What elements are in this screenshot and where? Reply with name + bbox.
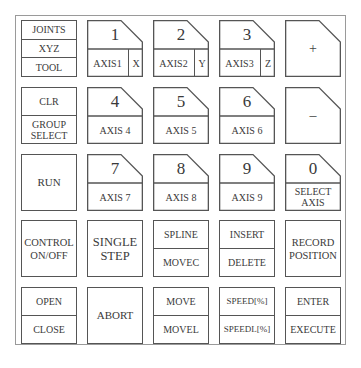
movec-label: MOVEC (154, 248, 208, 276)
run-key[interactable]: RUN (21, 154, 77, 211)
speed-label: SPEED[%] (220, 288, 274, 315)
key-4-axis4[interactable]: 4 AXIS 4 (87, 87, 143, 144)
minus-icon: – (285, 87, 341, 144)
close-label: CLOSE (22, 315, 76, 343)
coord-label: Y (194, 49, 209, 77)
enter-label: ENTER (286, 288, 340, 315)
on-off-label: ON/OFF (30, 249, 67, 262)
axis-label-row: AXIS3 Z (219, 49, 275, 77)
axis-label: AXIS 4 (87, 116, 143, 144)
plus-icon: + (285, 20, 341, 77)
mode-key-joints-xyz-tool[interactable]: JOINTS XYZ TOOL (21, 20, 77, 77)
single-label: SINGLE (93, 235, 137, 249)
control-label: CONTROL (24, 236, 74, 249)
step-label: STEP (100, 249, 129, 263)
group-select-label: GROUP SELECT (22, 115, 76, 143)
digit-label: 9 (219, 154, 275, 183)
axis-label: AXIS 7 (87, 183, 143, 211)
position-label: POSITION (289, 249, 337, 262)
key-1-axis1-x[interactable]: 1 AXIS1 X (87, 20, 143, 77)
key-0-select-axis[interactable]: 0 SELECT AXIS (285, 154, 341, 211)
record-position-key[interactable]: RECORD POSITION (285, 220, 341, 277)
axis-label: AXIS 8 (153, 183, 209, 211)
move-label: MOVE (154, 288, 208, 315)
coord-label: Z (260, 49, 275, 77)
axis-label: AXIS2 (153, 58, 194, 69)
open-close-key[interactable]: OPEN CLOSE (21, 287, 77, 344)
enter-execute-key[interactable]: ENTER EXECUTE (285, 287, 341, 344)
single-step-key[interactable]: SINGLE STEP (87, 220, 143, 277)
key-9-axis9[interactable]: 9 AXIS 9 (219, 154, 275, 211)
digit-label: 3 (219, 20, 275, 49)
mode-joints-label: JOINTS (22, 21, 76, 39)
spline-movec-key[interactable]: SPLINE MOVEC (153, 220, 209, 277)
key-3-axis3-z[interactable]: 3 AXIS3 Z (219, 20, 275, 77)
axis-label-row: AXIS2 Y (153, 49, 209, 77)
mode-tool-label: TOOL (22, 57, 76, 76)
delete-label: DELETE (220, 248, 274, 276)
execute-label: EXECUTE (286, 315, 340, 343)
axis-label: AXIS3 (219, 58, 260, 69)
abort-key[interactable]: ABORT (87, 287, 143, 344)
key-8-axis8[interactable]: 8 AXIS 8 (153, 154, 209, 211)
record-label: RECORD (292, 236, 335, 249)
key-2-axis2-y[interactable]: 2 AXIS2 Y (153, 20, 209, 77)
minus-key[interactable]: – (285, 87, 341, 144)
coord-label: X (128, 49, 143, 77)
digit-label: 2 (153, 20, 209, 49)
speedl-label: SPEEDL[%] (220, 315, 274, 343)
digit-label: 7 (87, 154, 143, 183)
select-label: SELECT (31, 130, 68, 141)
key-6-axis6[interactable]: 6 AXIS 6 (219, 87, 275, 144)
open-label: OPEN (22, 288, 76, 315)
digit-label: 4 (87, 87, 143, 116)
insert-delete-key[interactable]: INSERT DELETE (219, 220, 275, 277)
axis-label: AXIS 9 (219, 183, 275, 211)
axis-label: AXIS1 (87, 58, 128, 69)
select-label: SELECT (295, 186, 332, 197)
axis-label-row: AXIS1 X (87, 49, 143, 77)
axis-label: AXIS 6 (219, 116, 275, 144)
mode-xyz-label: XYZ (22, 39, 76, 58)
key-5-axis5[interactable]: 5 AXIS 5 (153, 87, 209, 144)
digit-label: 6 (219, 87, 275, 116)
plus-key[interactable]: + (285, 20, 341, 77)
speed-speedl-key[interactable]: SPEED[%] SPEEDL[%] (219, 287, 275, 344)
key-7-axis7[interactable]: 7 AXIS 7 (87, 154, 143, 211)
insert-label: INSERT (220, 221, 274, 248)
group-label: GROUP (32, 119, 66, 130)
run-label: RUN (37, 176, 60, 189)
digit-label: 8 (153, 154, 209, 183)
clr-label: CLR (22, 88, 76, 115)
axis-label: AXIS (301, 197, 324, 208)
abort-label: ABORT (97, 309, 134, 322)
digit-label: 1 (87, 20, 143, 49)
movel-label: MOVEL (154, 315, 208, 343)
digit-label: 0 (285, 154, 341, 183)
digit-label: 5 (153, 87, 209, 116)
control-on-off-key[interactable]: CONTROL ON/OFF (21, 220, 77, 277)
axis-label: AXIS 5 (153, 116, 209, 144)
move-movel-key[interactable]: MOVE MOVEL (153, 287, 209, 344)
select-axis-label: SELECT AXIS (285, 183, 341, 211)
spline-label: SPLINE (154, 221, 208, 248)
clr-group-select-key[interactable]: CLR GROUP SELECT (21, 87, 77, 144)
